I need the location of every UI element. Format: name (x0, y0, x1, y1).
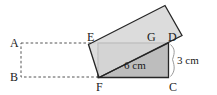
measure-label-side-right: 3 cm (177, 54, 199, 66)
geometry-figure-container: A B E F G D C 6 cm 3 cm (0, 0, 217, 95)
vertex-label-B: B (10, 70, 18, 84)
vertex-label-A: A (10, 36, 19, 50)
vertex-label-D: D (168, 30, 177, 44)
vertex-label-C: C (169, 80, 177, 94)
measure-label-diagonal: 6 cm (124, 59, 146, 71)
brace-DC (171, 45, 175, 77)
geometry-figure-svg: A B E F G D C 6 cm 3 cm (0, 0, 217, 95)
dashed-rectangle-outline (21, 43, 98, 77)
dashed-rectangle-AEFB (21, 43, 98, 77)
vertex-label-F: F (96, 80, 103, 94)
vertex-label-G: G (147, 30, 156, 44)
vertex-label-E: E (87, 30, 94, 44)
